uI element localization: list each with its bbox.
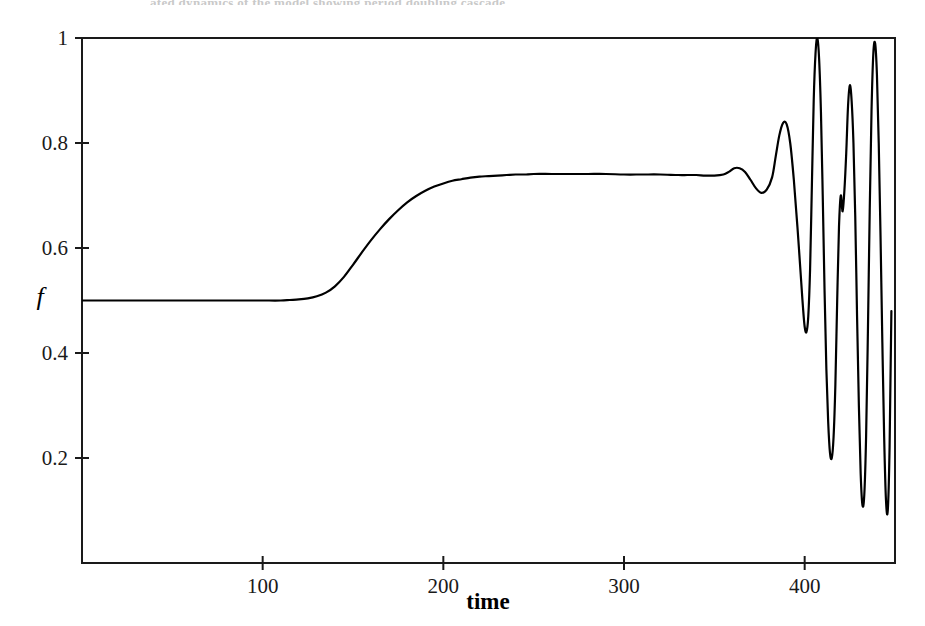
x-tick-label: 400	[789, 574, 821, 598]
y-axis-title: f	[36, 282, 47, 311]
chart-plot: 0.20.40.60.81 100200300400 time f	[0, 0, 925, 626]
x-tick-label: 200	[428, 574, 460, 598]
y-tick-label: 1	[58, 26, 69, 50]
y-tick-label: 0.2	[42, 446, 68, 470]
x-tick-label: 300	[608, 574, 640, 598]
y-tick-label: 0.6	[42, 236, 68, 260]
x-axis-title: time	[466, 589, 509, 614]
figure-container: ated dynamics of the model showing perio…	[0, 0, 925, 626]
x-tick-label: 100	[247, 574, 279, 598]
y-axis-tick-labels: 0.20.40.60.81	[42, 26, 69, 470]
y-tick-label: 0.8	[42, 131, 68, 155]
x-axis-tick-labels: 100200300400	[247, 574, 821, 598]
data-series-f	[82, 38, 891, 514]
y-tick-label: 0.4	[42, 341, 69, 365]
